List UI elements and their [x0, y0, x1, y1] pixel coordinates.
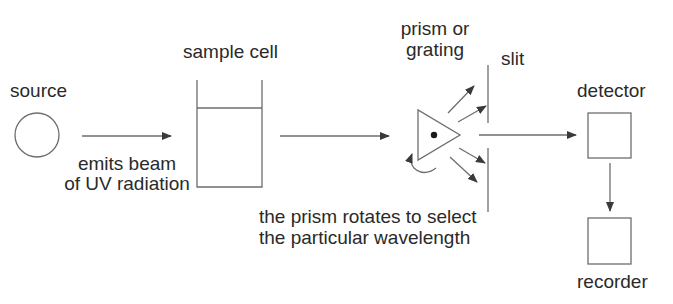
spectrometer-diagram: source emits beam of UV radiation sample…	[0, 0, 673, 304]
source-lamp-icon	[15, 113, 59, 157]
sample-cell-label: sample cell	[183, 42, 278, 62]
prism-icon	[418, 110, 460, 160]
dispersed-rays	[448, 86, 486, 182]
slit-label: slit	[501, 49, 524, 69]
sample-cell-icon	[197, 80, 262, 187]
prism-label-line2: grating	[398, 39, 472, 60]
source-label: source	[10, 81, 67, 101]
beam-annotation: emits beam of UV radiation	[60, 154, 194, 194]
recorder-box-icon	[588, 218, 631, 264]
beam-annotation-line1: emits beam	[60, 154, 194, 174]
detector-label: detector	[577, 81, 646, 101]
detector-box-icon	[588, 113, 631, 158]
beam-annotation-line2: of UV radiation	[60, 174, 194, 194]
prism-label-line1: prism or	[398, 18, 472, 39]
rotation-annotation: the prism rotates to select the particul…	[259, 206, 477, 248]
recorder-label: recorder	[577, 272, 648, 292]
diagram-canvas	[0, 0, 673, 304]
rotation-annotation-line1: the prism rotates to select	[259, 206, 477, 227]
rotation-annotation-line2: the particular wavelength	[259, 227, 477, 248]
prism-label: prism or grating	[398, 18, 472, 60]
